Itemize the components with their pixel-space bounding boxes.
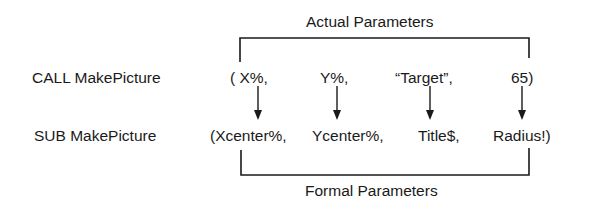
arrow-down-icon: [254, 86, 262, 120]
formal-parameters-label: Formal Parameters: [305, 183, 438, 199]
formal-param-title: Title$,: [418, 128, 460, 144]
diagram-lines: [0, 0, 590, 214]
actual-parameters-bracket: [240, 38, 529, 62]
arrow-down-icon: [518, 86, 526, 120]
actual-param-target: “Target”,: [395, 70, 453, 86]
formal-param-xcenter: (Xcenter%,: [210, 128, 287, 144]
actual-param-65: 65): [511, 70, 533, 86]
actual-parameters-label: Actual Parameters: [306, 14, 434, 30]
call-statement-keyword: CALL MakePicture: [32, 70, 161, 86]
actual-param-y: Y%,: [320, 70, 348, 86]
actual-param-x: ( X%,: [230, 70, 268, 86]
formal-param-radius: Radius!): [493, 128, 551, 144]
formal-param-ycenter: Ycenter%,: [312, 128, 384, 144]
arrow-down-icon: [426, 86, 434, 120]
arrow-down-icon: [333, 86, 341, 120]
sub-statement-keyword: SUB MakePicture: [34, 128, 156, 144]
formal-parameters-bracket: [241, 148, 529, 175]
